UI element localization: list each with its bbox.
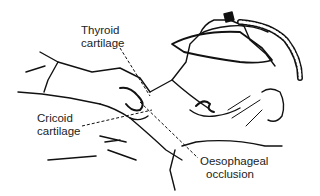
label-line: cartilage — [81, 37, 124, 50]
label-cricoid-cartilage: Cricoid cartilage — [37, 112, 80, 138]
arm-outline — [40, 52, 150, 92]
fingers — [120, 88, 143, 111]
illustration-canvas: Thyroid cartilage Cricoid cartilage Oeso… — [0, 0, 320, 196]
leader-thyroid — [120, 48, 150, 96]
label-line: occlusion — [200, 168, 268, 181]
label-line: Oesophageal — [200, 155, 268, 168]
collar — [170, 150, 175, 190]
label-oesophageal-occlusion: Oesophageal occlusion — [200, 155, 268, 181]
line-drawing — [0, 0, 320, 196]
wrist — [44, 62, 58, 92]
label-line: Cricoid — [37, 112, 80, 125]
chin — [190, 108, 240, 116]
ear — [262, 89, 284, 121]
thumb — [100, 104, 148, 120]
label-line: cartilage — [37, 125, 80, 138]
shading-1 — [48, 136, 136, 160]
label-line: Thyroid — [81, 24, 124, 37]
mask-connector — [224, 12, 234, 22]
label-thyroid-cartilage: Thyroid cartilage — [81, 24, 124, 50]
leader-oesophageal — [140, 102, 198, 158]
arm-lower — [18, 92, 100, 104]
shoulder — [182, 141, 282, 146]
sleeve-line — [26, 66, 45, 72]
jaw — [172, 80, 208, 108]
leader-cricoid — [82, 110, 152, 126]
